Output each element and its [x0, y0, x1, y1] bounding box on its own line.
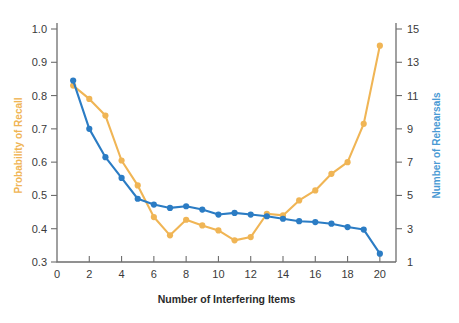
data-point	[167, 232, 173, 238]
data-point	[183, 203, 189, 209]
x-axis-tick-label: 8	[183, 268, 189, 280]
x-axis-tick-label: 0	[54, 268, 60, 280]
data-point	[280, 216, 286, 222]
data-point	[312, 219, 318, 225]
data-point	[199, 206, 205, 212]
data-point	[296, 218, 302, 224]
data-point	[344, 159, 350, 165]
data-point	[264, 213, 270, 219]
data-point	[215, 211, 221, 217]
data-point	[377, 251, 383, 257]
data-point	[167, 205, 173, 211]
dual-axis-line-chart: 0.30.40.50.60.70.80.91.01357911131502468…	[0, 0, 459, 323]
left-axis-tick-label: 0.6	[32, 156, 47, 168]
data-point	[328, 221, 334, 227]
right-axis-tick-label: 15	[407, 23, 419, 35]
right-axis-tick-label: 3	[407, 223, 413, 235]
data-point	[344, 224, 350, 230]
data-point	[231, 210, 237, 216]
chart-container: 0.30.40.50.60.70.80.91.01357911131502468…	[0, 0, 459, 323]
left-axis-tick-label: 0.3	[32, 256, 47, 268]
data-point	[118, 175, 124, 181]
x-axis-tick-label: 16	[309, 268, 321, 280]
left-axis-tick-label: 0.9	[32, 56, 47, 68]
right-axis-tick-label: 1	[407, 256, 413, 268]
data-point	[70, 77, 76, 83]
data-point	[102, 154, 108, 160]
x-axis-tick-label: 4	[119, 268, 125, 280]
data-point	[312, 187, 318, 193]
right-axis-tick-label: 11	[407, 90, 418, 102]
data-point	[361, 226, 367, 232]
left-axis-tick-label: 0.4	[32, 223, 47, 235]
x-axis-tick-label: 10	[212, 268, 224, 280]
left-axis-tick-label: 0.8	[32, 90, 47, 102]
data-point	[151, 214, 157, 220]
left-axis-tick-label: 1.0	[32, 23, 47, 35]
x-axis-tick-label: 6	[151, 268, 157, 280]
left-axis-tick-label: 0.7	[32, 123, 47, 135]
data-point	[86, 126, 92, 132]
x-axis-tick-label: 12	[245, 268, 257, 280]
data-point	[199, 222, 205, 228]
left-axis-title: Probability of Recall	[13, 97, 24, 193]
data-point	[183, 217, 189, 223]
data-point	[248, 211, 254, 217]
data-point	[135, 182, 141, 188]
right-axis-tick-label: 5	[407, 189, 413, 201]
data-point	[361, 121, 367, 127]
data-point	[377, 43, 383, 49]
data-point	[118, 157, 124, 163]
data-point	[102, 112, 108, 118]
plot-background	[0, 0, 459, 323]
right-axis-title: Number of Rehearsals	[431, 92, 442, 199]
data-point	[248, 234, 254, 240]
x-axis-tick-label: 2	[86, 268, 92, 280]
data-point	[135, 196, 141, 202]
x-axis-tick-label: 18	[341, 268, 353, 280]
data-point	[296, 197, 302, 203]
right-axis-tick-label: 13	[407, 56, 419, 68]
right-axis-tick-label: 7	[407, 156, 413, 168]
data-point	[215, 227, 221, 233]
data-point	[328, 171, 334, 177]
data-point	[151, 201, 157, 207]
data-point	[231, 237, 237, 243]
data-point	[86, 96, 92, 102]
x-axis-tick-label: 14	[277, 268, 289, 280]
left-axis-tick-label: 0.5	[32, 189, 47, 201]
x-axis-title: Number of Interfering Items	[158, 293, 296, 305]
x-axis-tick-label: 20	[374, 268, 386, 280]
right-axis-tick-label: 9	[407, 123, 413, 135]
